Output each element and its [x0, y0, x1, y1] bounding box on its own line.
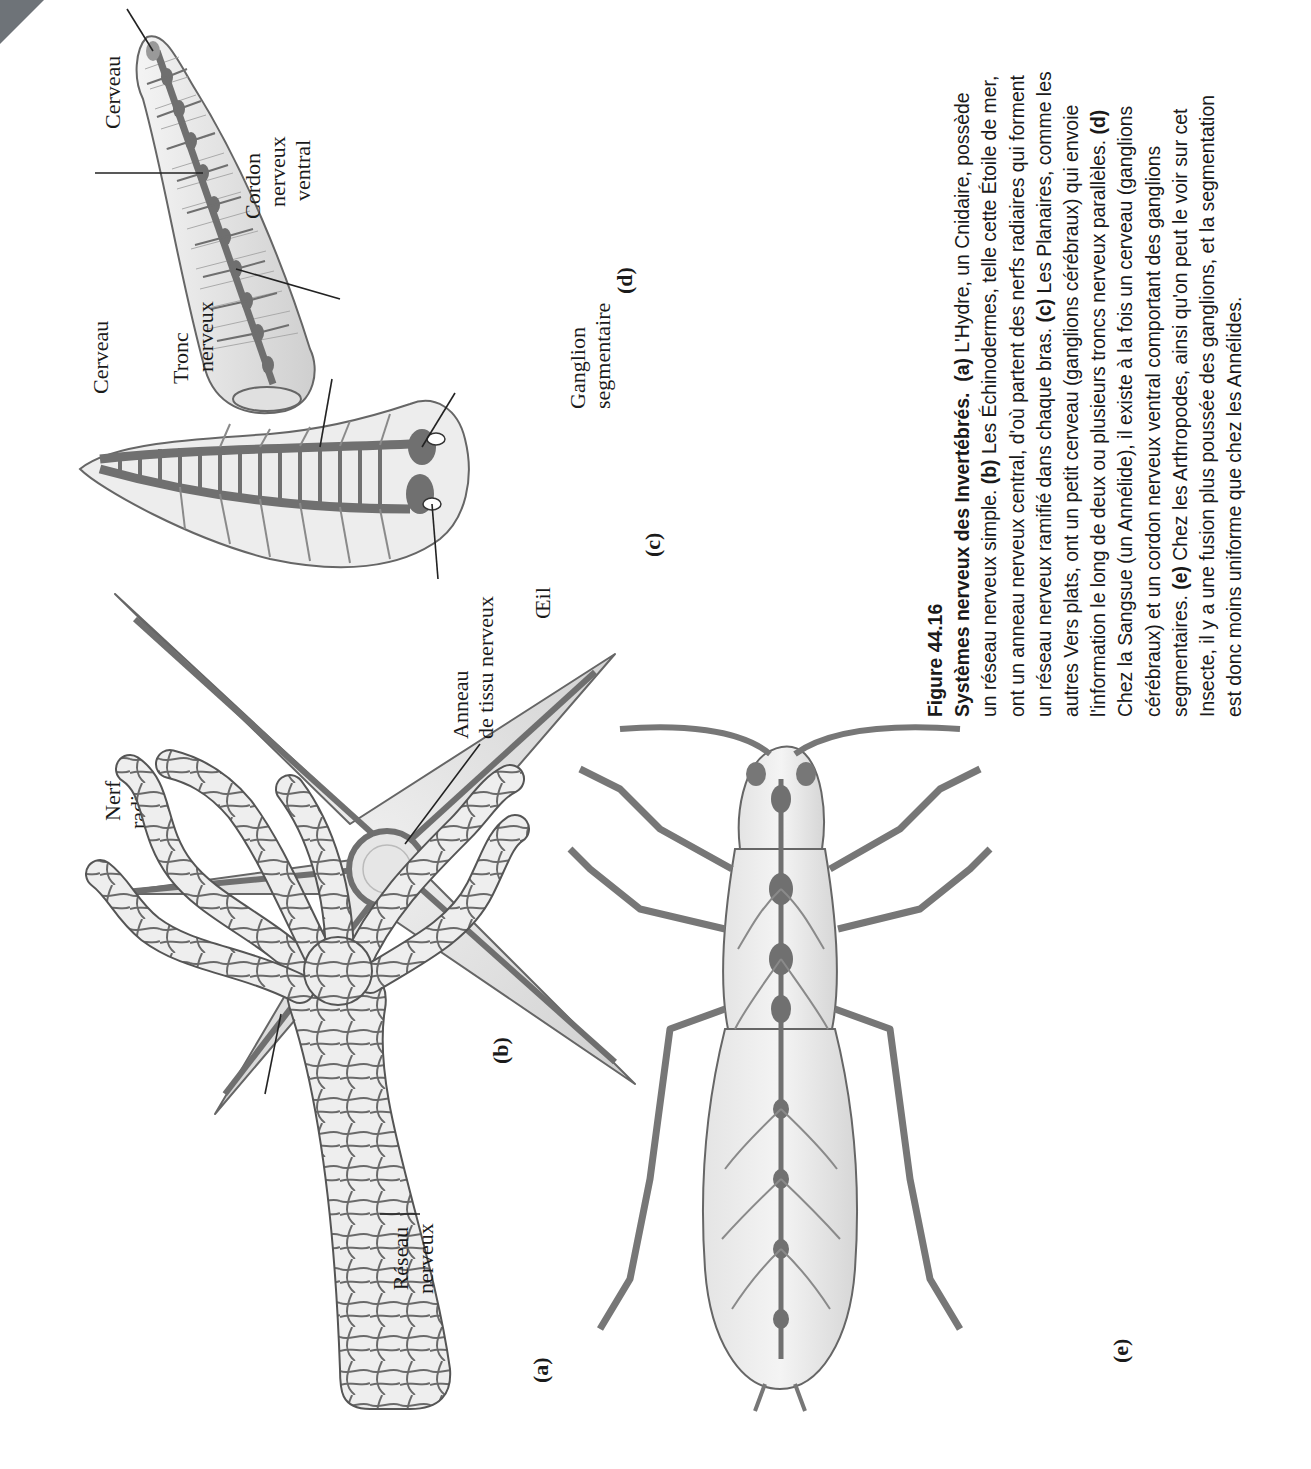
planarian-trunk-label: Tronc nerveux: [168, 301, 218, 384]
insect-illustration: [560, 709, 1000, 1429]
figure-number: Figure 44.16: [922, 67, 949, 717]
leech-ventral-cord-label: Cordon nerveux ventral: [240, 136, 315, 219]
caption-tag-c: (c): [1033, 299, 1055, 323]
hydra-illustration: [40, 749, 520, 1429]
page-corner-shadow: [0, 0, 44, 44]
panel-tag-a: (a): [528, 1357, 554, 1383]
rotated-figure-page: Cerveau Cordon nerveux ventral Ganglion …: [0, 0, 1311, 1469]
figure-title: Systèmes nerveux des Invertébrés.: [951, 393, 973, 717]
panel-tag-d: (d): [612, 267, 638, 294]
panel-tag-e: (e): [1108, 1339, 1134, 1363]
planarian-brain-label: Cerveau: [88, 321, 113, 394]
leech-brain-label: Cerveau: [100, 56, 125, 129]
hydra-nerve-net-label: Réseau nerveux: [388, 1223, 438, 1294]
caption-tag-b: (b): [978, 459, 1000, 484]
caption-tag-e: (e): [1169, 566, 1191, 590]
caption-body: Systèmes nerveux des Invertébrés. (a) L'…: [949, 67, 1248, 717]
caption-tag-a: (a): [951, 358, 973, 382]
figure-caption: Figure 44.16 Systèmes nerveux des Invert…: [922, 67, 1248, 717]
caption-tag-d: (d): [1087, 110, 1109, 135]
sea-star-nerve-ring-label: Anneau de tissu nerveux: [448, 596, 498, 739]
panel-tag-c: (c): [640, 533, 666, 557]
leech-ganglion-label: Ganglion segmentaire: [565, 303, 615, 409]
